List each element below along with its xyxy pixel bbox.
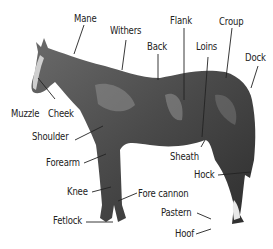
label-back: Back <box>147 41 167 52</box>
label-knee: Knee <box>67 186 88 197</box>
label-mane: Mane <box>74 13 96 24</box>
label-hoof: Hoof <box>175 228 194 239</box>
label-fetlock: Fetlock <box>53 215 82 226</box>
label-fore-cannon: Fore cannon <box>138 188 188 199</box>
label-loins: Loins <box>196 41 217 52</box>
label-muzzle: Muzzle <box>11 108 39 119</box>
horse-diagram: Mane Withers Flank Croup Back Loins Dock… <box>0 0 273 249</box>
label-pastern: Pastern <box>161 207 191 218</box>
label-shoulder: Shoulder <box>32 131 68 142</box>
label-sheath: Sheath <box>170 151 199 162</box>
horse-illustration <box>0 0 273 249</box>
label-dock: Dock <box>245 52 266 63</box>
label-croup: Croup <box>219 16 243 27</box>
label-cheek: Cheek <box>48 108 74 119</box>
label-withers: Withers <box>110 25 141 36</box>
label-forearm: Forearm <box>46 157 80 168</box>
label-flank: Flank <box>170 15 192 26</box>
label-hock: Hock <box>194 169 215 180</box>
